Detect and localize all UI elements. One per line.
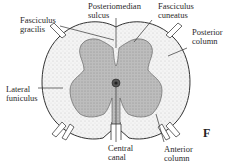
label-posteriomedian-sulcus: Posteriomedian sulcus xyxy=(88,2,141,20)
figure-letter: F xyxy=(203,126,210,141)
label-fasciculus-gracilis: Fasciculus gracilis xyxy=(20,16,56,34)
label-fasciculus-cuneatus: Fasciculus cuneatus xyxy=(158,2,194,20)
label-lateral-funiculus: Lateral funiculus xyxy=(6,85,38,103)
central-canal xyxy=(112,79,120,87)
label-central-canal: Central canal xyxy=(108,144,133,162)
label-posterior-column: Posterior column xyxy=(192,28,223,46)
label-anterior-column: Anterior column xyxy=(164,145,193,163)
